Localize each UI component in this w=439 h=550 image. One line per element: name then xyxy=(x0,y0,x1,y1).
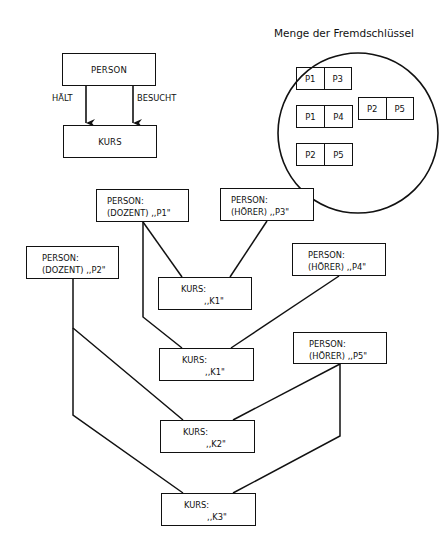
key-pair-a: P1 xyxy=(297,106,324,127)
person-instance-p3: PERSON: (HÖRER) ,,P3" xyxy=(220,188,314,221)
key-set-title: Menge der Fremdschlüssel xyxy=(274,27,414,39)
instance-type: KURS: xyxy=(182,354,207,366)
instance-type: KURS: xyxy=(183,426,208,438)
instance-type: KURS: xyxy=(184,499,209,511)
instance-detail: (HÖRER) ,,P5" xyxy=(309,350,367,362)
key-pair-b: P5 xyxy=(324,144,352,165)
schema-person-box: PERSON xyxy=(62,53,156,86)
relation-label-haelt: HÄLT xyxy=(52,93,72,103)
instance-detail: (DOZENT) ,,P2" xyxy=(42,264,106,276)
kurs-instance-k1-b: KURS: ,,K1" xyxy=(159,348,254,381)
key-pair-b: P3 xyxy=(324,68,352,89)
instance-detail: (HÖRER) ,,P4" xyxy=(308,261,366,273)
schema-kurs-box: KURS xyxy=(63,125,157,158)
key-pair-b: P5 xyxy=(386,98,414,119)
instance-type: KURS: xyxy=(181,283,206,295)
relation-label-besucht: BESUCHT xyxy=(137,93,176,103)
instance-detail: ,,K2" xyxy=(206,438,226,450)
instance-detail: ,,K1" xyxy=(205,366,225,378)
person-instance-p1: PERSON: (DOZENT) ,,P1" xyxy=(96,189,189,222)
instance-type: PERSON: xyxy=(308,249,345,261)
instance-detail: (DOZENT) ,,P1" xyxy=(107,207,171,219)
instance-type: PERSON: xyxy=(107,195,144,207)
key-pair: P1 P4 xyxy=(296,105,353,128)
schema-kurs-label: KURS xyxy=(98,137,122,147)
key-pair-a: P1 xyxy=(297,68,324,89)
key-pair-b: P4 xyxy=(324,106,352,127)
instance-detail: (HÖRER) ,,P3" xyxy=(231,206,289,218)
instance-detail: ,,K3" xyxy=(207,511,227,523)
instance-type: PERSON: xyxy=(231,194,268,206)
person-instance-p5: PERSON: (HÖRER) ,,P5" xyxy=(293,332,387,364)
instance-type: PERSON: xyxy=(309,338,346,350)
key-pair-a: P2 xyxy=(297,144,324,165)
kurs-instance-k2: KURS: ,,K2" xyxy=(160,420,255,453)
key-pair-a: P2 xyxy=(359,98,386,119)
person-instance-p2: PERSON: (DOZENT) ,,P2" xyxy=(26,246,119,279)
person-instance-p4: PERSON: (HÖRER) ,,P4" xyxy=(292,243,386,276)
kurs-instance-k3: KURS: ,,K3" xyxy=(161,493,256,526)
key-pair: P1 P3 xyxy=(296,67,352,90)
key-pair: P2 P5 xyxy=(296,143,353,166)
instance-type: PERSON: xyxy=(42,252,79,264)
key-pair: P2 P5 xyxy=(358,97,414,120)
kurs-instance-k1-a: KURS: ,,K1" xyxy=(158,277,252,310)
schema-person-label: PERSON xyxy=(91,65,127,75)
instance-detail: ,,K1" xyxy=(204,295,224,307)
